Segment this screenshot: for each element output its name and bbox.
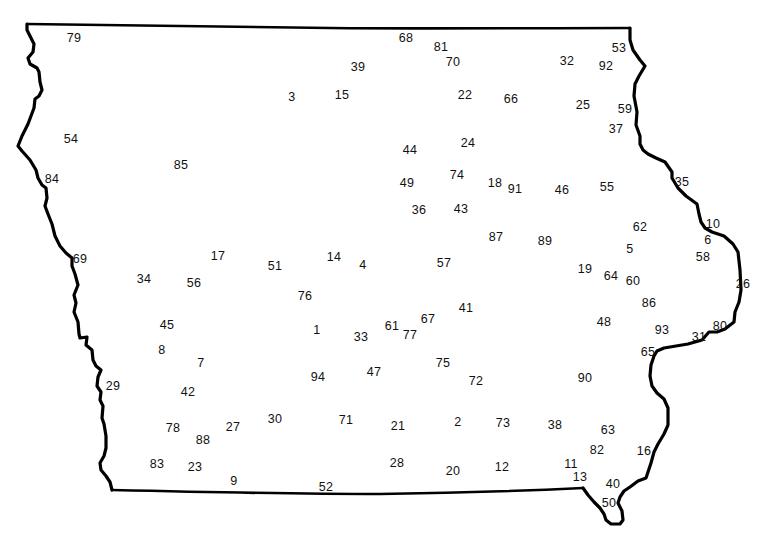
site-label: 78 <box>166 422 181 435</box>
site-label: 65 <box>641 346 656 359</box>
site-label: 51 <box>268 260 283 273</box>
site-label: 33 <box>354 331 369 344</box>
site-label: 12 <box>495 461 510 474</box>
site-label: 43 <box>454 203 469 216</box>
site-label: 18 <box>488 177 503 190</box>
site-label: 17 <box>211 250 226 263</box>
site-label: 54 <box>64 133 79 146</box>
site-label: 52 <box>319 481 334 494</box>
site-label: 61 <box>385 320 400 333</box>
site-label: 86 <box>642 297 657 310</box>
site-label: 60 <box>626 275 641 288</box>
site-label: 30 <box>268 413 283 426</box>
site-label: 66 <box>504 93 519 106</box>
site-label: 91 <box>508 183 523 196</box>
site-label: 88 <box>196 434 211 447</box>
site-label: 20 <box>446 465 461 478</box>
site-label: 3 <box>288 91 295 104</box>
site-label: 4 <box>359 259 366 272</box>
site-label: 94 <box>311 371 326 384</box>
site-label: 37 <box>609 123 624 136</box>
site-label: 53 <box>612 42 627 55</box>
site-label: 5 <box>626 243 633 256</box>
site-label: 24 <box>461 137 476 150</box>
site-label: 70 <box>446 56 461 69</box>
site-label: 31 <box>692 331 707 344</box>
iowa-state-outline <box>0 0 773 538</box>
site-label: 19 <box>578 263 593 276</box>
site-label: 45 <box>160 319 175 332</box>
site-label: 47 <box>367 366 382 379</box>
site-label: 32 <box>560 55 575 68</box>
site-label: 64 <box>604 270 619 283</box>
site-label: 38 <box>548 419 563 432</box>
site-label: 41 <box>459 302 474 315</box>
site-label: 7 <box>197 357 204 370</box>
site-label: 89 <box>538 235 553 248</box>
site-label: 6 <box>704 234 711 247</box>
site-label: 84 <box>45 173 60 186</box>
site-label: 28 <box>390 457 405 470</box>
site-label: 58 <box>696 251 711 264</box>
site-label: 71 <box>339 414 354 427</box>
west-border <box>18 24 112 490</box>
site-label: 27 <box>226 421 241 434</box>
site-label: 42 <box>181 386 196 399</box>
south-border <box>112 488 583 494</box>
site-label: 21 <box>391 420 406 433</box>
site-label: 69 <box>73 253 88 266</box>
site-label: 49 <box>400 177 415 190</box>
site-label: 14 <box>327 251 342 264</box>
site-label: 62 <box>633 221 648 234</box>
site-label: 34 <box>137 273 152 286</box>
site-label: 79 <box>67 32 82 45</box>
site-label: 50 <box>602 497 617 510</box>
site-label: 72 <box>469 375 484 388</box>
site-label: 11 <box>564 458 578 471</box>
site-label: 80 <box>713 320 728 333</box>
site-label: 90 <box>578 372 593 385</box>
site-label: 76 <box>298 290 313 303</box>
site-label: 93 <box>655 324 670 337</box>
site-label: 2 <box>454 416 461 429</box>
site-label: 29 <box>106 380 121 393</box>
site-label: 35 <box>675 176 690 189</box>
site-label: 10 <box>706 218 721 231</box>
site-label: 83 <box>150 458 165 471</box>
north-border <box>27 24 630 28</box>
site-label: 15 <box>335 89 350 102</box>
site-label: 8 <box>158 344 165 357</box>
site-label: 13 <box>573 471 588 484</box>
site-label: 73 <box>496 417 511 430</box>
site-label: 26 <box>736 278 751 291</box>
site-label: 92 <box>599 60 614 73</box>
site-label: 75 <box>436 357 451 370</box>
site-label: 59 <box>618 103 633 116</box>
site-label: 67 <box>421 313 436 326</box>
site-label: 46 <box>555 184 570 197</box>
site-label: 87 <box>489 231 504 244</box>
site-label: 23 <box>188 461 203 474</box>
site-label: 56 <box>187 277 202 290</box>
site-label: 55 <box>600 181 615 194</box>
site-label: 85 <box>174 159 189 172</box>
site-label: 57 <box>437 257 452 270</box>
site-label: 48 <box>597 316 612 329</box>
site-label: 16 <box>637 445 652 458</box>
site-label: 81 <box>434 41 449 54</box>
site-label: 9 <box>230 475 237 488</box>
site-label: 36 <box>412 204 427 217</box>
site-label: 40 <box>606 478 621 491</box>
site-label: 82 <box>590 444 605 457</box>
site-label: 74 <box>450 169 465 182</box>
site-label: 39 <box>351 61 366 74</box>
site-label: 63 <box>601 424 616 437</box>
site-label: 77 <box>403 329 418 342</box>
site-label: 1 <box>313 324 320 337</box>
site-label: 22 <box>458 89 473 102</box>
site-label: 25 <box>576 99 591 112</box>
site-label: 44 <box>403 144 418 157</box>
iowa-site-map: 7968815339703292315226625593754244485748… <box>0 0 773 538</box>
site-label: 68 <box>399 32 414 45</box>
